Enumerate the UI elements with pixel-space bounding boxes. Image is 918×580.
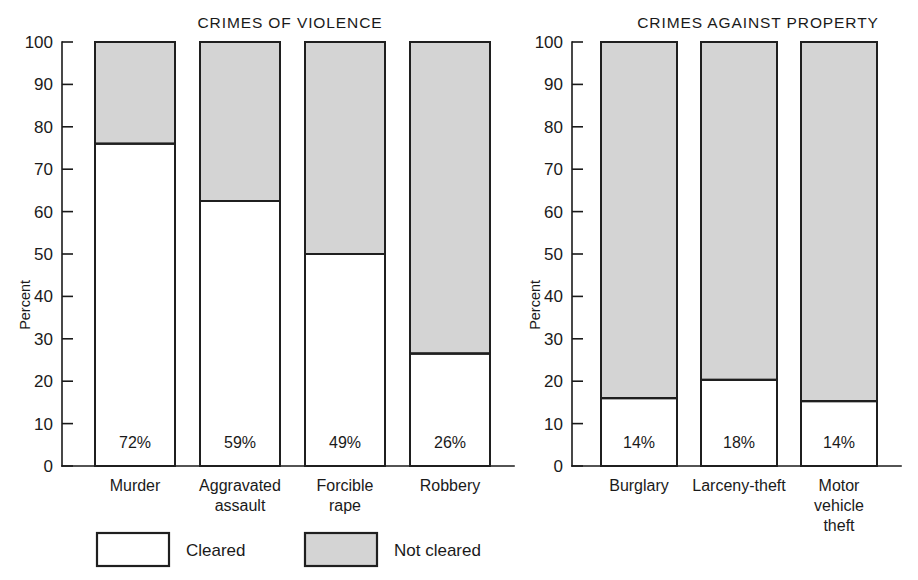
- legend-label-not_cleared: Not cleared: [394, 541, 481, 560]
- y-axis-title: Percent: [17, 280, 33, 330]
- y-axis-tick-label: 80: [544, 118, 563, 137]
- legend-swatch-not_cleared: [305, 533, 377, 566]
- stacked-bar[interactable]: 14%: [601, 42, 677, 466]
- y-axis-title: Percent: [527, 280, 543, 330]
- x-axis-category-label: Larceny-theft: [692, 477, 786, 494]
- y-axis-tick-label: 70: [34, 160, 53, 179]
- x-axis-category-label: theft: [823, 517, 855, 534]
- y-axis-tick-label: 30: [34, 330, 53, 349]
- y-axis-tick-label: 10: [544, 415, 563, 434]
- bar-segment-cleared[interactable]: [200, 201, 280, 466]
- y-axis-tick-label: 0: [554, 457, 563, 476]
- x-axis-category-label: Motor: [819, 477, 861, 494]
- bar-value-label: 14%: [623, 434, 655, 451]
- chart-canvas: CRIMES OF VIOLENCE0102030405060708090100…: [0, 0, 918, 580]
- chart-title: CRIMES AGAINST PROPERTY: [637, 14, 878, 31]
- bar-segment-cleared[interactable]: [701, 380, 777, 466]
- stacked-bar[interactable]: 14%: [801, 42, 877, 466]
- chart-panel-crimes-against-property: CRIMES AGAINST PROPERTY01020304050607080…: [527, 14, 901, 534]
- y-axis-tick-label: 60: [544, 203, 563, 222]
- bar-segment-cleared[interactable]: [95, 144, 175, 466]
- y-axis-tick-label: 70: [544, 160, 563, 179]
- bar-segment-not-cleared[interactable]: [601, 42, 677, 398]
- stacked-bar[interactable]: 18%: [701, 42, 777, 466]
- x-axis-category-label: Murder: [110, 477, 161, 494]
- bar-value-label: 18%: [723, 434, 755, 451]
- bar-segment-not-cleared[interactable]: [305, 42, 385, 254]
- bar-value-label: 49%: [329, 434, 361, 451]
- bar-value-label: 59%: [224, 434, 256, 451]
- x-axis-category-label: rape: [329, 497, 361, 514]
- legend-label-cleared: Cleared: [186, 541, 246, 560]
- legend-swatch-cleared: [97, 533, 169, 566]
- y-axis-tick-label: 10: [34, 415, 53, 434]
- y-axis-tick-label: 60: [34, 203, 53, 222]
- x-axis-category-label: vehicle: [814, 497, 864, 514]
- y-axis-tick-label: 90: [34, 75, 53, 94]
- bar-segment-not-cleared[interactable]: [95, 42, 175, 144]
- x-axis-category-label: assault: [215, 497, 266, 514]
- stacked-bar[interactable]: 49%: [305, 42, 385, 466]
- x-axis-category-label: Aggravated: [199, 477, 281, 494]
- bar-segment-not-cleared[interactable]: [200, 42, 280, 201]
- chart-title: CRIMES OF VIOLENCE: [197, 14, 382, 31]
- y-axis-tick-label: 30: [544, 330, 563, 349]
- x-axis-category-label: Robbery: [420, 477, 480, 494]
- bar-value-label: 72%: [119, 434, 151, 451]
- stacked-bar[interactable]: 72%: [95, 42, 175, 466]
- stacked-bar[interactable]: 59%: [200, 42, 280, 466]
- bar-value-label: 14%: [823, 434, 855, 451]
- stacked-bar[interactable]: 26%: [410, 42, 490, 466]
- bar-segment-not-cleared[interactable]: [801, 42, 877, 401]
- chart-panel-crimes-of-violence: CRIMES OF VIOLENCE0102030405060708090100…: [17, 14, 514, 514]
- bar-segment-not-cleared[interactable]: [701, 42, 777, 380]
- y-axis-tick-label: 50: [34, 245, 53, 264]
- legend: ClearedNot cleared: [97, 533, 481, 566]
- stacked-bar-figure: CRIMES OF VIOLENCE0102030405060708090100…: [0, 0, 918, 580]
- legend-item-not_cleared[interactable]: Not cleared: [305, 533, 481, 566]
- y-axis-tick-label: 20: [34, 372, 53, 391]
- y-axis-tick-label: 40: [34, 287, 53, 306]
- bar-segment-not-cleared[interactable]: [410, 42, 490, 354]
- y-axis-tick-label: 100: [535, 33, 563, 52]
- y-axis-tick-label: 40: [544, 287, 563, 306]
- x-axis-category-label: Forcible: [317, 477, 374, 494]
- legend-item-cleared[interactable]: Cleared: [97, 533, 246, 566]
- y-axis-tick-label: 90: [544, 75, 563, 94]
- y-axis-tick-label: 100: [25, 33, 53, 52]
- y-axis-tick-label: 50: [544, 245, 563, 264]
- y-axis-tick-label: 80: [34, 118, 53, 137]
- y-axis-tick-label: 0: [44, 457, 53, 476]
- x-axis-category-label: Burglary: [609, 477, 669, 494]
- bar-segment-cleared[interactable]: [601, 398, 677, 466]
- y-axis-tick-label: 20: [544, 372, 563, 391]
- bar-value-label: 26%: [434, 434, 466, 451]
